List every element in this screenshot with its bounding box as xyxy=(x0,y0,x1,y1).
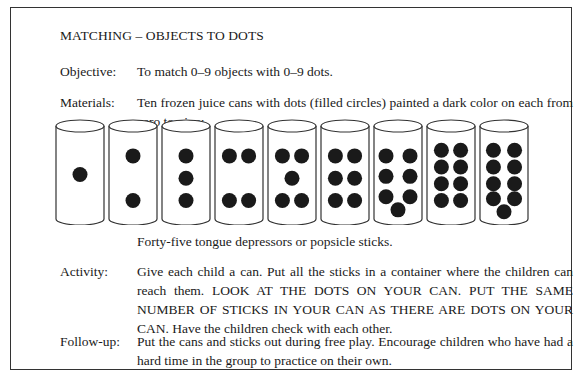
activity-text: Give each child a can. Put all the stick… xyxy=(137,262,573,338)
cans-illustration xyxy=(55,119,531,225)
can-5-dots xyxy=(268,120,316,225)
can-6-dots xyxy=(321,120,369,225)
can-4-dots xyxy=(215,120,263,225)
dot xyxy=(222,193,237,208)
dot xyxy=(179,148,194,163)
dot xyxy=(486,191,501,206)
dot xyxy=(347,171,362,186)
dot xyxy=(507,143,522,158)
dot xyxy=(507,191,522,206)
dot xyxy=(328,193,343,208)
dot xyxy=(486,176,501,191)
dot xyxy=(347,148,362,163)
dot xyxy=(391,202,406,217)
dot xyxy=(241,148,256,163)
dot xyxy=(434,143,449,158)
activity-label: Activity: xyxy=(60,262,137,281)
objective-label: Objective: xyxy=(60,62,137,81)
dot xyxy=(379,169,394,184)
followup-label: Follow-up: xyxy=(60,332,137,351)
can-2-dots xyxy=(109,120,157,225)
dot xyxy=(179,193,194,208)
dot xyxy=(453,160,468,175)
cans-with-dots-figure xyxy=(55,119,531,225)
dot xyxy=(275,148,290,163)
dot xyxy=(434,193,449,208)
dot xyxy=(486,143,501,158)
dot xyxy=(379,189,394,204)
dot xyxy=(453,176,468,191)
dot xyxy=(126,148,141,163)
dot xyxy=(453,143,468,158)
dot xyxy=(453,193,468,208)
dot xyxy=(347,193,362,208)
dot xyxy=(275,193,290,208)
dot xyxy=(241,193,256,208)
materials-label: Materials: xyxy=(60,93,137,112)
can-1-dots xyxy=(56,120,104,225)
dot xyxy=(294,148,309,163)
dot xyxy=(328,148,343,163)
dot xyxy=(294,193,309,208)
can-7-dots xyxy=(374,120,422,225)
dot xyxy=(434,176,449,191)
dot xyxy=(285,171,300,186)
can-3-dots xyxy=(162,120,210,225)
dot xyxy=(497,204,512,219)
dot xyxy=(179,171,194,186)
dot xyxy=(403,148,418,163)
dot xyxy=(328,171,343,186)
dot xyxy=(507,176,522,191)
can-8-dots xyxy=(427,120,475,225)
dot xyxy=(403,189,418,204)
dot xyxy=(379,148,394,163)
materials-extra-text: Forty-five tongue depressors or popsicle… xyxy=(137,232,573,251)
dot xyxy=(507,160,522,175)
dot xyxy=(222,148,237,163)
page-title: MATCHING – OBJECTS TO DOTS xyxy=(60,28,264,44)
dot xyxy=(486,160,501,175)
dot xyxy=(434,160,449,175)
can-9-dots xyxy=(480,120,528,225)
objective-text: To match 0–9 objects with 0–9 dots. xyxy=(137,62,573,81)
dot xyxy=(73,167,88,182)
dot xyxy=(126,193,141,208)
dot xyxy=(403,169,418,184)
followup-text: Put the cans and sticks out during free … xyxy=(137,332,573,370)
